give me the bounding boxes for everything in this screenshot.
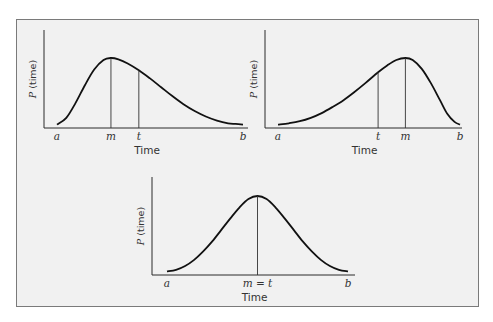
tick-label-m: m (106, 130, 116, 142)
tick-label-mt: m = t (243, 277, 273, 289)
x-axis-label: Time (241, 291, 268, 303)
x-axis-label: Time (351, 144, 378, 156)
probability-curve (278, 58, 460, 125)
y-axis-label-time: (time) (27, 60, 38, 92)
tick-label-b: b (240, 130, 247, 142)
tick-label-t: t (137, 130, 142, 142)
figure-canvas: amtbTimeP (time)atmbTimeP (time)am = tbT… (0, 0, 493, 322)
y-axis-label: P (time) (248, 60, 259, 99)
tick-label-a: a (164, 277, 170, 289)
chart-right-skewed: amtbTimeP (time) (27, 30, 248, 156)
tick-label-a: a (275, 130, 281, 142)
tick-label-m: m (400, 130, 410, 142)
chart-symmetric: am = tbTimeP (time) (135, 177, 355, 303)
y-axis-label-time: (time) (248, 60, 259, 92)
tick-label-t: t (376, 130, 381, 142)
y-axis-label: P (time) (135, 207, 146, 246)
tick-label-b: b (345, 277, 352, 289)
probability-curve (57, 58, 243, 125)
tick-label-a: a (54, 130, 60, 142)
y-axis-label-time: (time) (135, 207, 146, 239)
y-axis-label: P (time) (27, 60, 38, 99)
chart-left-skewed: atmbTimeP (time) (248, 30, 464, 156)
x-axis-label: Time (133, 144, 160, 156)
tick-label-b: b (457, 130, 464, 142)
